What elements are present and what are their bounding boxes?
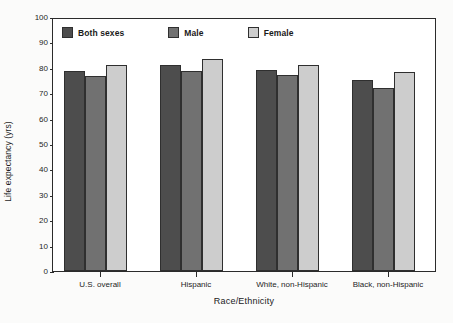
bar-group bbox=[341, 19, 437, 271]
bar bbox=[277, 75, 298, 271]
bar bbox=[394, 72, 415, 271]
legend-label: Male bbox=[184, 28, 203, 38]
y-axis-tick-label: 100 bbox=[22, 14, 48, 22]
bar-group bbox=[245, 19, 341, 271]
bar bbox=[85, 76, 106, 271]
y-axis-tick-label: 80 bbox=[22, 65, 48, 73]
y-axis-tick-label: 0 bbox=[22, 268, 48, 276]
bar-chart: Life expectancy (yrs) 100908070605040302… bbox=[0, 0, 453, 323]
bar bbox=[160, 65, 181, 271]
legend-swatch-icon bbox=[62, 27, 73, 38]
legend-label: Both sexes bbox=[78, 28, 124, 38]
y-axis-title: Life expectancy (yrs) bbox=[0, 0, 16, 323]
plot-area bbox=[52, 18, 436, 272]
x-axis-tick-label: White, non-Hispanic bbox=[256, 280, 328, 290]
bar bbox=[181, 71, 202, 271]
x-axis-tick-mark bbox=[388, 272, 389, 277]
x-axis-tick-label: Black, non-Hispanic bbox=[353, 280, 424, 290]
x-axis-tick-mark bbox=[100, 272, 101, 277]
legend-swatch-icon bbox=[168, 27, 179, 38]
legend-item: Female bbox=[248, 27, 294, 38]
y-axis-tick-label: 10 bbox=[22, 243, 48, 251]
x-axis-tick-label: U.S. overall bbox=[79, 280, 120, 290]
y-axis-tick-label: 20 bbox=[22, 217, 48, 225]
x-axis-tick-mark bbox=[196, 272, 197, 277]
x-axis-tick-mark bbox=[292, 272, 293, 277]
bars-layer bbox=[53, 19, 435, 271]
bar bbox=[373, 88, 394, 271]
x-axis-title: Race/Ethnicity bbox=[52, 296, 436, 306]
legend-item: Both sexes bbox=[62, 27, 124, 38]
bar-group bbox=[149, 19, 245, 271]
bar bbox=[352, 80, 373, 271]
legend-swatch-icon bbox=[248, 27, 259, 38]
bar bbox=[64, 71, 85, 271]
bar bbox=[298, 65, 319, 271]
chart-legend: Both sexesMaleFemale bbox=[62, 27, 294, 38]
y-axis-tick-label: 40 bbox=[22, 166, 48, 174]
y-axis-tick-label: 50 bbox=[22, 141, 48, 149]
bar bbox=[202, 59, 223, 271]
y-axis-tick-label: 60 bbox=[22, 116, 48, 124]
bar-group bbox=[53, 19, 149, 271]
x-axis-tick-marks bbox=[52, 272, 436, 278]
x-axis-tick-label: Hispanic bbox=[181, 280, 212, 290]
y-axis-tick-labels: 1009080706050403020100 bbox=[22, 0, 48, 323]
bar bbox=[106, 65, 127, 271]
x-axis-tick-labels: U.S. overallHispanicWhite, non-HispanicB… bbox=[52, 280, 436, 294]
y-axis-tick-label: 30 bbox=[22, 192, 48, 200]
legend-item: Male bbox=[168, 27, 203, 38]
y-axis-tick-label: 90 bbox=[22, 39, 48, 47]
bar bbox=[256, 70, 277, 271]
legend-label: Female bbox=[264, 28, 294, 38]
y-axis-tick-label: 70 bbox=[22, 90, 48, 98]
